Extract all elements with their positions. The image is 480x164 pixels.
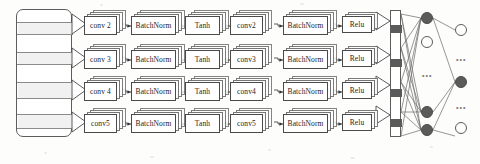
output-node <box>455 122 467 134</box>
stage-box: BatchNorm <box>131 44 185 72</box>
stage-box: conv2 <box>230 10 272 38</box>
stage-box: BatchNorm <box>131 76 185 104</box>
stage-label: conv4 <box>237 88 256 96</box>
stage-box: BatchNorm <box>131 108 185 136</box>
stage-label: BatchNorm <box>288 56 324 64</box>
stage-label: Tanh <box>195 88 210 96</box>
stage-label: BatchNorm <box>288 22 324 30</box>
stage-label: Tanh <box>195 22 210 30</box>
stage-box: conv 3 <box>84 44 126 72</box>
stage-box: Tanh <box>185 108 229 136</box>
stage-label: BatchNorm <box>136 120 172 128</box>
diagram-canvas: conv 2 BatchNorm Tanh conv2 BatchNorm <box>0 0 480 164</box>
stage-label: conv 2 <box>90 22 111 30</box>
stage-box: BatchNorm <box>283 10 337 38</box>
stage-label: BatchNorm <box>136 56 172 64</box>
stage-label: Tanh <box>195 56 210 64</box>
stage-label: conv5 <box>91 120 110 128</box>
stage-label: conv 3 <box>90 56 111 64</box>
stage-box: Relu <box>342 12 378 38</box>
stage-label: conv 4 <box>90 88 111 96</box>
hidden-node <box>421 36 433 48</box>
stage-box: conv4 <box>230 76 272 104</box>
stage-box: conv5 <box>230 108 272 136</box>
stage-label: Relu <box>350 87 365 95</box>
hidden-layer-ellipsis: ••• <box>422 72 432 79</box>
stage-label: Relu <box>350 119 365 127</box>
output-layer-ellipsis: ••• <box>456 56 466 63</box>
stage-box: conv5 <box>84 108 126 136</box>
fc-wires-2 <box>433 18 455 136</box>
stage-label: Relu <box>350 21 365 29</box>
hidden-node <box>421 124 433 136</box>
stage-box: Tanh <box>185 76 229 104</box>
fc-wires-1 <box>401 14 421 136</box>
stage-label: BatchNorm <box>288 120 324 128</box>
output-layer-ellipsis: ••• <box>456 104 466 111</box>
stage-label: conv3 <box>237 56 256 64</box>
stage-box: conv 2 <box>84 10 126 38</box>
stage-box: Relu <box>342 110 378 136</box>
hidden-node <box>421 106 433 118</box>
stage-label: BatchNorm <box>288 88 324 96</box>
stage-box: BatchNorm <box>283 44 337 72</box>
stage-label: Relu <box>350 55 365 63</box>
stage-box: conv3 <box>230 44 272 72</box>
stage-box: Relu <box>342 78 378 104</box>
stage-box: Tanh <box>185 10 229 38</box>
stage-label: conv2 <box>237 22 256 30</box>
hidden-node <box>421 12 433 24</box>
stage-box: conv 4 <box>84 76 126 104</box>
stage-box: BatchNorm <box>283 76 337 104</box>
stage-label: BatchNorm <box>136 88 172 96</box>
stage-label: BatchNorm <box>136 22 172 30</box>
stage-box: BatchNorm <box>131 10 185 38</box>
stage-label: conv5 <box>237 120 256 128</box>
stage-label: Tanh <box>195 120 210 128</box>
output-node <box>455 24 467 36</box>
output-node <box>455 76 467 88</box>
stage-box: Tanh <box>185 44 229 72</box>
stage-box: BatchNorm <box>283 108 337 136</box>
stage-box: Relu <box>342 46 378 72</box>
